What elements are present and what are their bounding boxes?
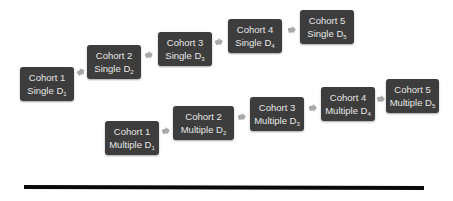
box-subtitle: Multiple D3 [250,114,304,127]
single-cohort-2-box: Cohort 2 Single D2 [87,45,141,79]
box-title: Cohort 4 [228,23,282,36]
multiple-cohort-5-box: Cohort 5 Multiple D5 [386,79,439,113]
arrow-icon [214,37,224,47]
box-title: Cohort 2 [173,110,234,123]
multiple-cohort-1-box: Cohort 1 Multiple D1 [105,121,159,155]
multiple-cohort-2-box: Cohort 2 Multiple D2 [173,106,234,140]
box-subtitle: Multiple D2 [173,123,234,136]
box-subtitle: Multiple D5 [386,96,439,109]
box-title: Cohort 1 [105,125,159,138]
box-subtitle: Single D3 [158,49,212,62]
single-cohort-4-box: Cohort 4 Single D4 [228,19,282,53]
arrow-icon [161,126,171,136]
box-subtitle: Single D1 [20,84,74,97]
box-subtitle: Multiple D1 [105,138,159,151]
box-subtitle: Single D5 [300,27,354,40]
single-cohort-5-box: Cohort 5 Single D5 [300,10,354,44]
arrow-icon [237,112,246,121]
box-title: Cohort 3 [250,101,304,114]
box-subtitle: Multiple D4 [321,104,375,117]
single-cohort-3-box: Cohort 3 Single D3 [158,32,212,66]
arrow-icon [308,103,317,112]
arrow-icon [76,67,87,78]
horizontal-divider-line [24,185,424,190]
box-subtitle: Single D4 [228,36,282,49]
single-cohort-1-box: Cohort 1 Single D1 [20,67,74,101]
box-title: Cohort 5 [300,14,354,27]
box-title: Cohort 5 [386,83,439,96]
box-title: Cohort 4 [321,91,375,104]
box-title: Cohort 3 [158,36,212,49]
arrow-icon [287,25,296,34]
arrow-icon [144,50,154,60]
multiple-cohort-3-box: Cohort 3 Multiple D3 [250,97,304,131]
box-title: Cohort 2 [87,49,141,62]
box-title: Cohort 1 [20,71,74,84]
box-subtitle: Single D2 [87,62,141,75]
multiple-cohort-4-box: Cohort 4 Multiple D4 [321,87,375,121]
arrow-icon [376,94,385,103]
